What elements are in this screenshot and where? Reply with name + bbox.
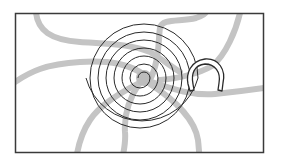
illustration bbox=[0, 0, 281, 165]
diagram-canvas bbox=[0, 0, 281, 165]
roads bbox=[15, 12, 264, 160]
horseshoe-magnet-icon bbox=[188, 59, 224, 91]
